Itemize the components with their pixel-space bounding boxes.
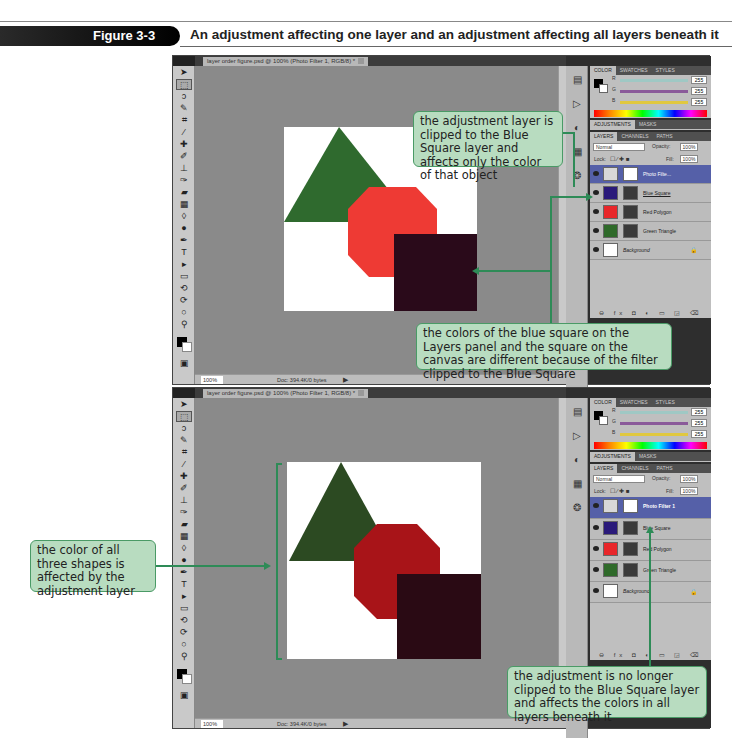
blend-mode-select[interactable]: Normal [593,475,645,483]
status-menu-arrow-icon[interactable]: ▶ [343,719,348,729]
quick-select-tool-icon[interactable]: ✎ [176,435,192,446]
zoom-tool-icon[interactable]: ⚲ [176,651,192,662]
background-color-swatch[interactable] [182,674,192,684]
fill-input[interactable]: 100% [680,155,698,163]
visibility-eye-icon[interactable] [593,228,599,233]
brush-tool-icon[interactable]: ✐ [176,151,192,162]
pen-tool-icon[interactable]: ✒ [176,567,192,578]
healing-tool-icon[interactable]: ✚ [176,471,192,482]
move-tool-icon[interactable]: ➤ [176,67,192,78]
crop-tool-icon[interactable]: ⌗ [176,447,192,458]
stamp-tool-icon[interactable]: ⊥ [176,495,192,506]
green-value[interactable]: 255 [691,419,707,427]
hand-tool-icon[interactable]: ○ [176,307,192,318]
visibility-eye-icon[interactable] [593,525,599,530]
clone-source-panel-icon[interactable]: ❂ [569,170,585,184]
lasso-tool-icon[interactable]: ↄ [176,423,192,434]
marquee-tool-icon[interactable]: ⬚ [176,79,192,90]
quick-mask-icon[interactable]: ▣ [176,358,192,369]
green-slider[interactable] [620,422,688,425]
blue-slider[interactable] [620,101,688,104]
lock-icons[interactable]: ☐ ⁄ ✚ ■ [610,487,630,494]
tab-color[interactable]: COLOR [590,398,616,407]
history-brush-tool-icon[interactable]: ✑ [176,507,192,518]
blur-tool-icon[interactable]: ◊ [176,211,192,222]
type-tool-icon[interactable]: T [176,579,192,590]
history-brush-tool-icon[interactable]: ✑ [176,175,192,186]
history-panel-icon[interactable]: ▤ [569,74,585,88]
blue-slider[interactable] [620,433,688,436]
layer-row-red-polygon[interactable]: Red Polygon [590,203,711,222]
visibility-eye-icon[interactable] [593,209,599,214]
clone-source-panel-icon[interactable]: ❂ [569,502,585,516]
pen-tool-icon[interactable]: ✒ [176,235,192,246]
blue-value[interactable]: 255 [691,430,707,438]
layer-row-green-triangle[interactable]: Green Triangle [590,222,711,241]
visibility-eye-icon[interactable] [593,567,599,572]
3d-rotate-tool-icon[interactable]: ⟲ [176,283,192,294]
path-select-tool-icon[interactable]: ▸ [176,259,192,270]
tab-styles[interactable]: STYLES [652,66,679,75]
tab-paths[interactable]: PATHS [653,464,677,473]
quick-mask-icon[interactable]: ▣ [176,690,192,701]
hand-tool-icon[interactable]: ○ [176,639,192,650]
blur-tool-icon[interactable]: ◊ [176,543,192,554]
fill-input[interactable]: 100% [680,487,698,495]
tab-adjustments[interactable]: ADJUSTMENTS [590,452,635,461]
red-slider[interactable] [620,411,688,414]
layer-row-background[interactable]: Background🔒 [590,241,711,260]
zoom-level[interactable]: 100% [201,720,223,728]
tab-styles[interactable]: STYLES [652,398,679,407]
layers-panel-footer[interactable]: ⊖ fx ◘ ◐ ▭ ◲ ⌫ [590,308,711,318]
eyedropper-tool-icon[interactable]: ⁄ [176,127,192,138]
opacity-input[interactable]: 100% [680,475,698,483]
red-slider[interactable] [620,79,688,82]
3d-orbit-tool-icon[interactable]: ⟳ [176,295,192,306]
tab-paths[interactable]: PATHS [653,132,677,141]
tab-color[interactable]: COLOR [590,66,616,75]
path-select-tool-icon[interactable]: ▸ [176,591,192,602]
zoom-level[interactable]: 100% [201,376,223,384]
visibility-eye-icon[interactable] [593,546,599,551]
color-spectrum[interactable] [594,110,707,117]
navigator-panel-icon[interactable]: ▦ [569,478,585,492]
type-tool-icon[interactable]: T [176,247,192,258]
tab-channels[interactable]: CHANNELS [617,464,652,473]
lasso-tool-icon[interactable]: ↄ [176,91,192,102]
layer-row-photo-filter[interactable]: Photo Filte... [590,165,711,184]
quick-select-tool-icon[interactable]: ✎ [176,103,192,114]
brush-tool-icon[interactable]: ✐ [176,483,192,494]
color-swatches[interactable] [173,663,194,689]
layer-row-blue-square[interactable]: Blue Square [590,184,711,203]
visibility-eye-icon[interactable] [593,247,599,252]
toolbar-grip[interactable] [173,388,195,398]
dodge-tool-icon[interactable]: ● [176,223,192,234]
gradient-tool-icon[interactable]: ▦ [176,531,192,542]
healing-tool-icon[interactable]: ✚ [176,139,192,150]
background-color-swatch[interactable] [182,342,192,352]
tab-layers[interactable]: LAYERS [590,464,617,473]
zoom-tool-icon[interactable]: ⚲ [176,319,192,330]
layer-row-photo-filter[interactable]: Photo Filter 1 [590,497,711,519]
red-value[interactable]: 255 [691,408,707,416]
gradient-tool-icon[interactable]: ▦ [176,199,192,210]
shape-tool-icon[interactable]: ▭ [176,603,192,614]
green-value[interactable]: 255 [691,87,707,95]
3d-rotate-tool-icon[interactable]: ⟲ [176,615,192,626]
status-menu-arrow-icon[interactable]: ▶ [343,375,348,385]
document-tab[interactable]: layer order figure.psd @ 100% (Photo Fil… [203,389,368,398]
visibility-eye-icon[interactable] [593,588,599,593]
visibility-eye-icon[interactable] [593,190,599,195]
move-tool-icon[interactable]: ➤ [176,399,192,410]
crop-tool-icon[interactable]: ⌗ [176,115,192,126]
eyedropper-tool-icon[interactable]: ⁄ [176,459,192,470]
red-value[interactable]: 255 [691,76,707,84]
document-tab[interactable]: layer order figure.psd @ 100% (Photo Fil… [203,57,368,66]
tab-masks[interactable]: MASKS [635,452,661,461]
actions-panel-icon[interactable]: ▷ [569,98,585,112]
blue-value[interactable]: 255 [691,98,707,106]
color-swatches[interactable] [173,331,194,357]
close-tab-icon[interactable] [358,390,364,396]
blend-mode-select[interactable]: Normal [593,143,645,151]
actions-panel-icon[interactable]: ▷ [569,430,585,444]
